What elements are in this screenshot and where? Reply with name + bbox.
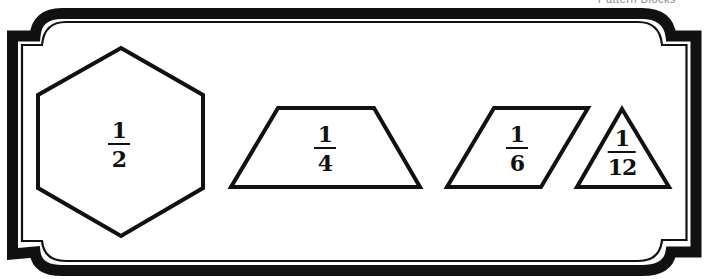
hexagon-fraction: 1 2 — [108, 120, 130, 169]
pattern-block-card: Pattern Blocks 1 2 1 4 1 6 1 12 — [0, 0, 704, 279]
rhombus-fraction: 1 6 — [506, 124, 528, 173]
triangle-denominator: 12 — [608, 157, 637, 177]
trapezoid-denominator: 4 — [318, 153, 332, 173]
fraction-bar — [506, 147, 528, 149]
trapezoid-fraction: 1 4 — [314, 124, 336, 173]
hexagon-denominator: 2 — [112, 149, 126, 169]
trapezoid-numerator: 1 — [318, 124, 332, 144]
triangle-fraction: 1 12 — [608, 128, 637, 177]
triangle-numerator: 1 — [615, 128, 629, 148]
hexagon-numerator: 1 — [112, 120, 126, 140]
rhombus-numerator: 1 — [510, 124, 524, 144]
fraction-bar — [608, 151, 636, 153]
fraction-bar — [108, 143, 130, 145]
rhombus-denominator: 6 — [510, 153, 524, 173]
fraction-bar — [314, 147, 336, 149]
decorative-frame — [0, 0, 704, 279]
